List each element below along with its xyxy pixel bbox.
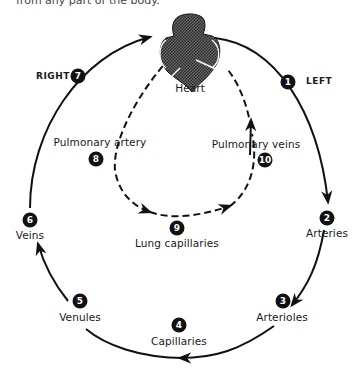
label-arteries: Arteries [306, 227, 348, 239]
pulmonary-arc-lung-capillaries [150, 206, 230, 216]
step-badge-2: 2 [320, 211, 335, 226]
label-veins: Veins [16, 229, 44, 241]
systemic-arc-heart-to-arteries [215, 38, 328, 202]
side-label-left: LEFT [306, 76, 332, 86]
step-badge-3: 3 [276, 294, 291, 309]
step-badge-7: 7 [71, 69, 86, 84]
heart-icon [160, 14, 222, 92]
side-label-right: RIGHT [36, 71, 70, 81]
heart-label: Heart [175, 82, 205, 94]
step-badge-8: 8 [89, 152, 104, 167]
pulmonary-arc-veins-to-heart [228, 70, 251, 128]
pulmonary-arc-heart-to-lungs [115, 58, 170, 212]
label-pulmonary-artery: Pulmonary artery [54, 136, 147, 148]
label-capillaries: Capillaries [151, 335, 207, 347]
step-badge-6: 6 [23, 213, 38, 228]
label-arterioles: Arterioles [256, 311, 308, 323]
label-venules: Venules [59, 311, 101, 323]
systemic-arc-venules-to-veins [38, 244, 68, 301]
systemic-arc-veins-to-heart [30, 37, 150, 208]
label-pulmonary-veins: Pulmonary veins [212, 138, 301, 150]
step-badge-10: 10 [258, 153, 273, 168]
step-badge-4: 4 [172, 318, 187, 333]
label-lung-capillaries: Lung capillaries [135, 237, 219, 249]
step-badge-1: 1 [281, 75, 296, 90]
systemic-arc-arteries-to-arterioles [292, 230, 324, 305]
step-badge-5: 5 [73, 294, 88, 309]
step-badge-9: 9 [170, 221, 185, 236]
